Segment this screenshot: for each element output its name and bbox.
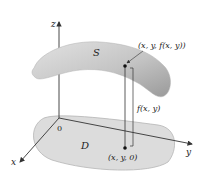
surface-point-label: (x, y, f(x, y)): [138, 41, 186, 50]
origin-label: 0: [57, 124, 62, 133]
surface-over-domain-diagram: z y x 0 S D (x, y, f(x, y)) (x, y, 0) f(…: [0, 0, 204, 181]
x-axis-label: x: [11, 157, 16, 167]
z-axis-label: z: [50, 19, 56, 29]
y-axis-label: y: [185, 147, 192, 157]
surface-label: S: [93, 47, 100, 58]
height-label: f(x, y): [136, 104, 160, 113]
domain-region-d: [34, 116, 175, 170]
surface-s: [32, 42, 171, 97]
domain-label: D: [80, 140, 89, 151]
surface-point: [123, 64, 127, 68]
domain-point-label: (x, y, 0): [108, 153, 137, 162]
domain-point: [123, 146, 127, 150]
